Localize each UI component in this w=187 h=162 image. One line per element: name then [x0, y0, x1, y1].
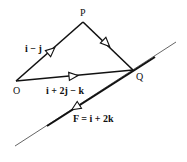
point-label-P: P: [80, 7, 86, 18]
vector-label-OP: i − j: [25, 43, 42, 54]
force-label: F = i + 2k: [73, 113, 114, 124]
arrow-icon-OQ: [69, 72, 79, 81]
vector-diagram: P O Q i − j i + 2j − k F = i + 2k: [0, 0, 187, 162]
point-label-Q: Q: [136, 71, 144, 82]
vector-label-OQ: i + 2j − k: [46, 85, 85, 96]
point-label-O: O: [13, 85, 20, 96]
